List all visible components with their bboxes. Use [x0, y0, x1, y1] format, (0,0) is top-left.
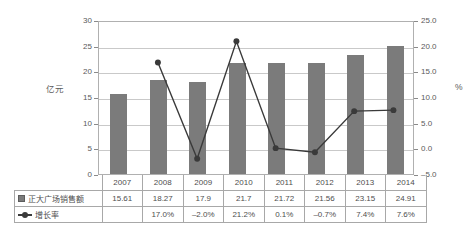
data-point-marker — [351, 108, 357, 114]
data-point-marker — [273, 145, 279, 151]
right-tick-mark — [414, 149, 418, 150]
data-point-marker — [194, 156, 200, 162]
data-table: 20072008200920102011201220132014正大广场销售额1… — [14, 175, 427, 223]
chart-figure: 亿元 % 302520151050 25.020.015.010.05.00.0… — [0, 0, 475, 240]
table-series-label-cell: 正大广场销售额 — [15, 191, 103, 207]
table-value-cell: 7.6% — [386, 207, 427, 223]
left-tick-label: 10 — [66, 120, 92, 128]
table-value-cell: 24.91 — [386, 191, 427, 207]
table-value-cell: 21.2% — [224, 207, 265, 223]
right-tick-mark — [414, 21, 418, 22]
table-value-cell: 18.27 — [143, 191, 184, 207]
left-tick-label: 15 — [66, 94, 92, 102]
data-point-marker — [233, 38, 239, 44]
table-value-cell: 23.15 — [345, 191, 386, 207]
right-tick-mark — [414, 72, 418, 73]
table-value-cell: –2.0% — [183, 207, 224, 223]
right-tick-label: 10.0 — [421, 94, 451, 102]
table-value-cell: –0.7% — [305, 207, 346, 223]
table-value-cell — [102, 207, 143, 223]
legend-line-swatch-icon — [18, 211, 32, 218]
table-year-cell: 2011 — [264, 175, 305, 191]
left-tick-label: 20 — [66, 68, 92, 76]
table-corner-cell — [15, 175, 103, 191]
left-tick-label: 5 — [66, 145, 92, 153]
table-value-cell: 21.72 — [264, 191, 305, 207]
legend-bar-swatch-icon — [18, 195, 25, 202]
table-year-cell: 2008 — [143, 175, 184, 191]
table-row: 正大广场销售额15.6118.2717.921.721.7221.5623.15… — [15, 191, 427, 207]
table-row: 增长率17.0%–2.0%21.2%0.1%–0.7%7.4%7.6% — [15, 207, 427, 223]
table-value-cell: 17.0% — [143, 207, 184, 223]
plot-area — [98, 21, 414, 175]
left-tick-label: 30 — [66, 17, 92, 25]
table-value-cell: 7.4% — [345, 207, 386, 223]
table-value-cell: 21.56 — [305, 191, 346, 207]
right-tick-mark — [414, 47, 418, 48]
table-year-cell: 2007 — [102, 175, 143, 191]
right-tick-mark — [414, 98, 418, 99]
legend-label: 正大广场销售额 — [28, 193, 84, 204]
data-point-marker — [312, 149, 318, 155]
line-series — [99, 22, 413, 174]
data-point-marker — [155, 60, 161, 66]
right-tick-mark — [414, 124, 418, 125]
table-value-cell: 0.1% — [264, 207, 305, 223]
table-row-years: 20072008200920102011201220132014 — [15, 175, 427, 191]
right-axis-title: % — [455, 82, 463, 92]
table-value-cell: 15.61 — [102, 191, 143, 207]
table-year-cell: 2014 — [386, 175, 427, 191]
growth-rate-line — [158, 41, 394, 159]
left-tick-label: 25 — [66, 43, 92, 51]
table-year-cell: 2009 — [183, 175, 224, 191]
table-year-cell: 2013 — [345, 175, 386, 191]
right-tick-label: 20.0 — [421, 43, 451, 51]
right-tick-label: 5.0 — [421, 120, 451, 128]
table-year-cell: 2012 — [305, 175, 346, 191]
table-value-cell: 17.9 — [183, 191, 224, 207]
legend-label: 增长率 — [35, 209, 59, 220]
right-tick-label: 25.0 — [421, 17, 451, 25]
right-tick-label: 15.0 — [421, 68, 451, 76]
data-point-marker — [390, 107, 396, 113]
left-axis-title: 亿元 — [46, 82, 64, 94]
table-year-cell: 2010 — [224, 175, 265, 191]
table-series-label-cell: 增长率 — [15, 207, 103, 223]
right-tick-label: 0.0 — [421, 145, 451, 153]
table-value-cell: 21.7 — [224, 191, 265, 207]
